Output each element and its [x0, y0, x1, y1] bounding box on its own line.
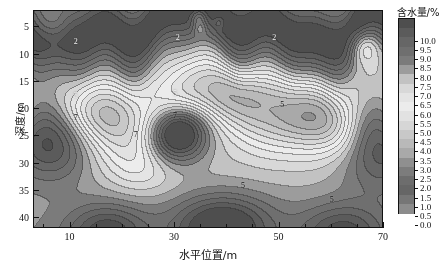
x-axis-tick — [357, 224, 358, 228]
y-axis-tick — [33, 135, 39, 136]
colorbar-tick — [415, 151, 418, 152]
y-axis-tick-label: 5 — [8, 21, 29, 32]
x-axis-tick — [331, 224, 332, 228]
colorbar-tick — [415, 68, 418, 69]
colorbar — [398, 18, 415, 214]
x-axis-tick — [174, 222, 175, 228]
colorbar-tick — [415, 216, 418, 217]
contour-label: 5 — [330, 195, 334, 204]
colorbar-tick — [415, 133, 418, 134]
x-axis-tick-label: 10 — [65, 231, 75, 242]
colorbar-tick — [415, 115, 418, 116]
x-axis-tick — [96, 224, 97, 228]
colorbar-tick — [415, 142, 418, 143]
y-axis-tick — [33, 190, 39, 191]
x-axis-tick — [200, 224, 201, 228]
colorbar-tick-label: 0.0 — [420, 220, 431, 230]
colorbar-container: 含水量/% 10.09.59.08.58.07.57.06.56.05.55.0… — [398, 18, 415, 214]
colorbar-tick — [415, 96, 418, 97]
y-axis-tick-label: 40 — [8, 212, 29, 223]
colorbar-tick — [415, 50, 418, 51]
contour-label: 2 — [272, 33, 276, 42]
contour-label: 5 — [241, 181, 245, 190]
y-axis-tick — [33, 26, 39, 27]
contour-label: 7 — [173, 110, 177, 119]
y-axis-tick-label: 15 — [8, 75, 29, 86]
x-axis-tick — [148, 224, 149, 228]
x-axis-tick — [383, 222, 384, 228]
colorbar-tick — [415, 161, 418, 162]
y-axis-tick — [33, 108, 39, 109]
x-axis-tick-label: 70 — [378, 231, 388, 242]
colorbar-tick — [415, 124, 418, 125]
contour-figure: 22255577755 10305070 510152025303540 水平位… — [0, 0, 448, 265]
colorbar-tick — [415, 207, 418, 208]
plot-area: 22255577755 — [33, 10, 383, 228]
contour-label: 2 — [74, 36, 78, 45]
y-axis-tick — [33, 54, 39, 55]
colorbar-tick — [415, 188, 418, 189]
y-axis-tick-label: 10 — [8, 48, 29, 59]
y-axis-tick — [33, 217, 39, 218]
y-axis-tick-label: 30 — [8, 157, 29, 168]
y-axis-tick-label: 35 — [8, 184, 29, 195]
colorbar-tick — [415, 59, 418, 60]
x-axis-tick — [43, 224, 44, 228]
x-axis-tick — [226, 224, 227, 228]
colorbar-tick — [415, 41, 418, 42]
x-axis-tick-label: 30 — [169, 231, 179, 242]
colorbar-tick — [415, 198, 418, 199]
x-axis-tick — [70, 222, 71, 228]
contour-label: 5 — [74, 91, 78, 100]
contour-label: 5 — [280, 99, 284, 108]
x-axis-tick-label: 50 — [274, 231, 284, 242]
x-axis-tick — [122, 224, 123, 228]
contour-label: 7 — [74, 113, 78, 122]
contour-label: 7 — [134, 129, 138, 138]
x-axis-tick — [252, 224, 253, 228]
x-axis-tick — [305, 224, 306, 228]
colorbar-tick — [415, 225, 418, 226]
x-axis-label: 水平位置/m — [179, 246, 237, 262]
x-axis-tick — [279, 222, 280, 228]
y-axis-label: 深度/m — [12, 102, 27, 135]
contour-label: 2 — [176, 33, 180, 42]
colorbar-title: 含水量/% — [397, 4, 440, 19]
colorbar-tick — [415, 78, 418, 79]
contour-label: 5 — [173, 88, 177, 97]
colorbar-band — [399, 204, 414, 214]
colorbar-tick — [415, 105, 418, 106]
colorbar-tick — [415, 87, 418, 88]
colorbar-tick — [415, 170, 418, 171]
y-axis-tick — [33, 163, 39, 164]
colorbar-tick — [415, 179, 418, 180]
y-axis-tick — [33, 81, 39, 82]
